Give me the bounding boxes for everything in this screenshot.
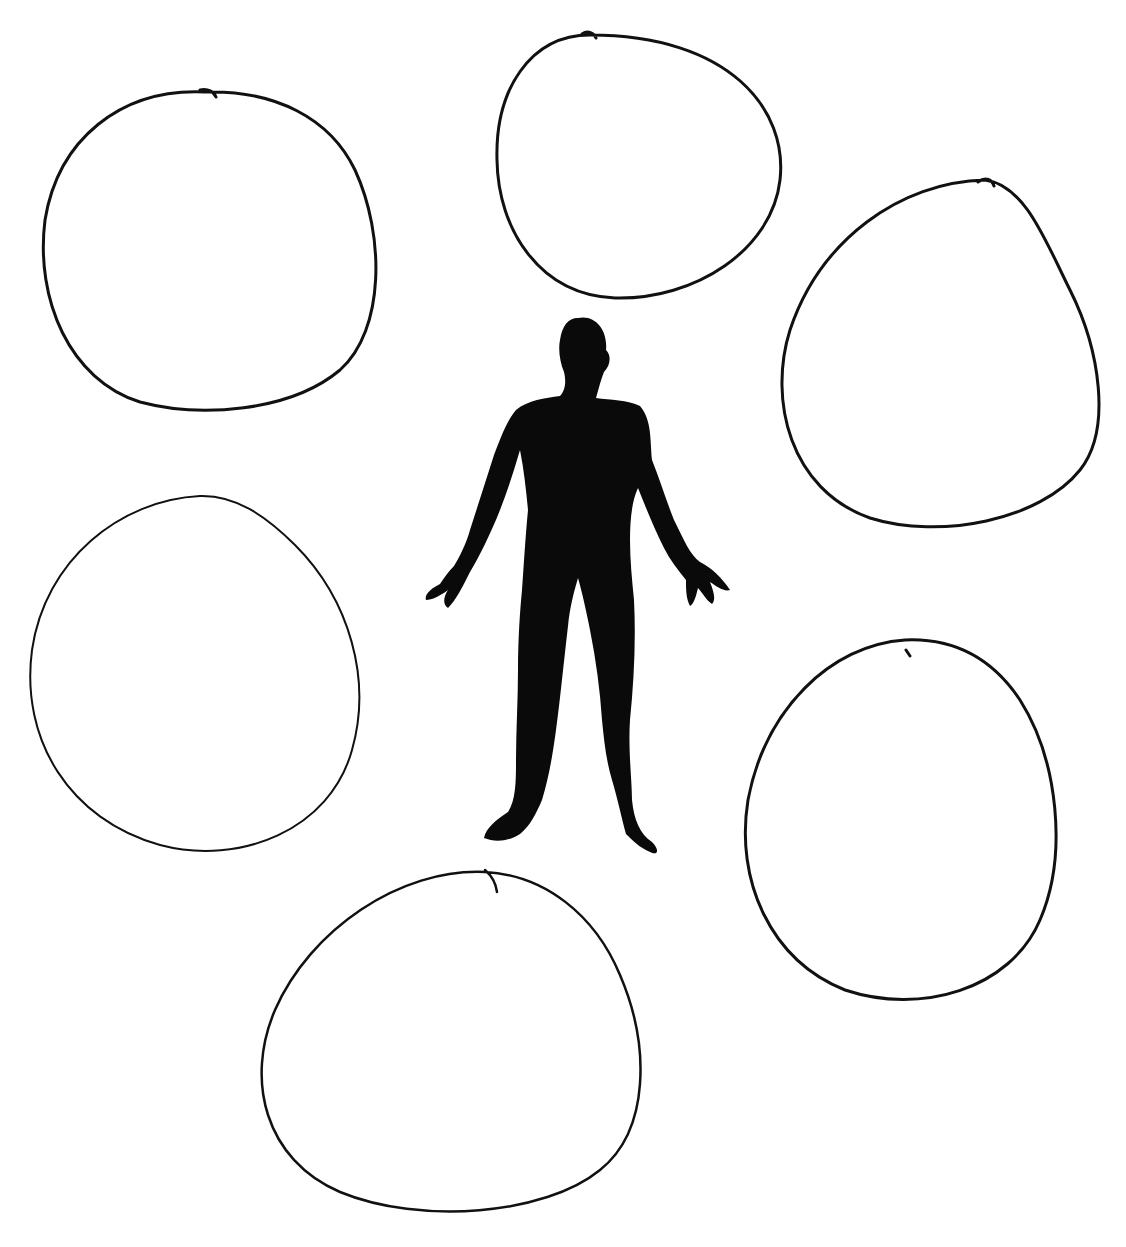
human-silhouette	[426, 317, 730, 853]
circle-top-center	[497, 32, 781, 298]
circle-bottom-center	[262, 870, 641, 1211]
circle-middle-left	[30, 496, 359, 851]
circle-middle-right	[745, 640, 1056, 1000]
diagram-canvas	[0, 0, 1126, 1247]
circle-top-left	[43, 89, 376, 410]
circle-top-right	[782, 179, 1099, 527]
